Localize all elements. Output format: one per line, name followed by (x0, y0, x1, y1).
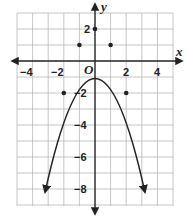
y-tick-neg6: −6 (74, 151, 87, 163)
x-tick-neg4: −4 (20, 66, 33, 78)
y-tick-neg4: −4 (74, 119, 87, 131)
x-tick-neg2: −2 (51, 66, 64, 78)
x-axis-label: x (175, 44, 183, 59)
x-tick-2: 2 (123, 66, 129, 78)
coordinate-plane: x y O −4 −2 2 4 2 −2 −4 −6 −8 (0, 0, 188, 219)
origin-label: O (84, 62, 94, 77)
y-tick-2: 2 (84, 23, 90, 35)
y-tick-neg2: −2 (74, 87, 87, 99)
x-tick-4: 4 (154, 66, 161, 78)
y-axis-label: y (99, 0, 107, 14)
y-tick-neg8: −8 (74, 183, 87, 195)
